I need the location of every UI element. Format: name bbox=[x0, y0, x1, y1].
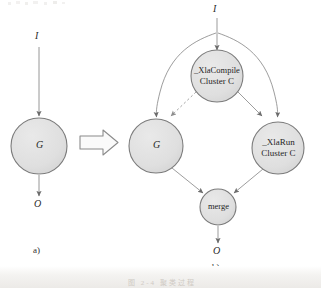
panel-b-output-label: O bbox=[213, 246, 220, 256]
node-xlarun bbox=[252, 122, 304, 174]
node-g-a bbox=[11, 118, 67, 174]
panel-a-output-label: O bbox=[34, 199, 41, 209]
edge-g-to-merge bbox=[172, 168, 203, 193]
edge-xlacompile-to-xlarun bbox=[238, 92, 262, 116]
node-xlacompile bbox=[191, 50, 243, 102]
transform-arrow-icon bbox=[80, 130, 118, 155]
figure-canvas: G --> bbox=[0, 0, 321, 288]
figure-caption: 图 2-4 聚类过程 bbox=[128, 277, 196, 287]
edge-xlacompile-to-g-dashed bbox=[171, 92, 196, 116]
panel-a-input-label: I bbox=[35, 31, 38, 41]
scan-artifacts bbox=[8, 1, 65, 5]
node-merge bbox=[200, 189, 236, 225]
panel-a-group bbox=[11, 47, 67, 196]
node-g-b bbox=[129, 119, 183, 173]
panel-a-caption: a) bbox=[33, 245, 40, 255]
panel-b-group: G --> bbox=[129, 18, 304, 243]
panel-b-input-label: I bbox=[213, 4, 216, 14]
edge-xlarun-to-merge bbox=[234, 169, 263, 193]
